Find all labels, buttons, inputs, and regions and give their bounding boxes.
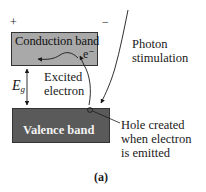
hole-line1: Hole created — [121, 118, 191, 132]
negative-sign: − — [102, 16, 109, 28]
photon-line2: stimulation — [132, 51, 188, 65]
band-gap-symbol: E — [12, 78, 21, 93]
positive-sign: + — [10, 16, 17, 28]
excited-electron-line2: electron — [44, 84, 84, 98]
excited-electron-line1: Excited — [44, 70, 84, 84]
excited-electron-label: Excited electron — [44, 70, 84, 98]
electron-symbol: e⁻ — [83, 47, 95, 61]
band-gap-subscript: g — [21, 84, 26, 94]
hole-line3: is emitted — [121, 146, 191, 160]
hole-label: Hole created when electron is emitted — [121, 118, 191, 160]
photon-line1: Photon — [132, 37, 188, 51]
hole-line2: when electron — [121, 132, 191, 146]
band-gap-label: Eg — [12, 78, 25, 94]
valence-band: Valence band — [12, 108, 110, 143]
valence-band-label: Valence band — [23, 123, 94, 138]
photon-stimulation-label: Photon stimulation — [132, 37, 188, 65]
figure-caption: (a) — [94, 170, 108, 185]
